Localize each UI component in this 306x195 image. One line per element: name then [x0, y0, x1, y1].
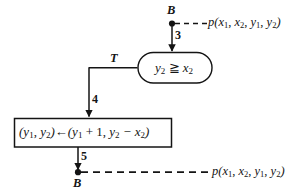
exit-terminal-dot [75, 169, 81, 175]
decision-right-subscript: 2 [189, 66, 194, 76]
entry-predicate-label: p(x1, x2, y1, y2) [208, 16, 281, 29]
exit-predicate-close: ) [280, 164, 284, 178]
entry-predicate-close: ) [276, 15, 280, 29]
edge-label-4: 4 [92, 93, 98, 105]
assignment-arrow-icon: ← [55, 124, 68, 139]
decision-node-label: y2 ≧ x2 [155, 61, 193, 76]
assignment-value-close: ) [145, 124, 149, 139]
branch-label-true: T [110, 52, 118, 65]
decision-operator: ≧ [169, 60, 180, 75]
decision-left-subscript: 2 [161, 66, 166, 76]
edge-label-3: 3 [175, 29, 181, 41]
assignment-value-a-op: + 1 [82, 124, 102, 139]
assignment-node-label: (y1, y2)←(y1 + 1, y2 − x2) [19, 125, 149, 140]
flowchart-canvas: B 3 p(x1, x2, y1, y2) y2 ≧ x2 T 4 (y1, y… [0, 0, 306, 195]
exit-terminal-symbol: B [73, 177, 81, 190]
edge-label-5: 5 [81, 150, 87, 162]
assignment-value-b-op: − x [120, 124, 141, 139]
entry-terminal-symbol: B [167, 4, 175, 17]
exit-predicate-label: p(x1, x2, y1, y2) [212, 165, 285, 178]
